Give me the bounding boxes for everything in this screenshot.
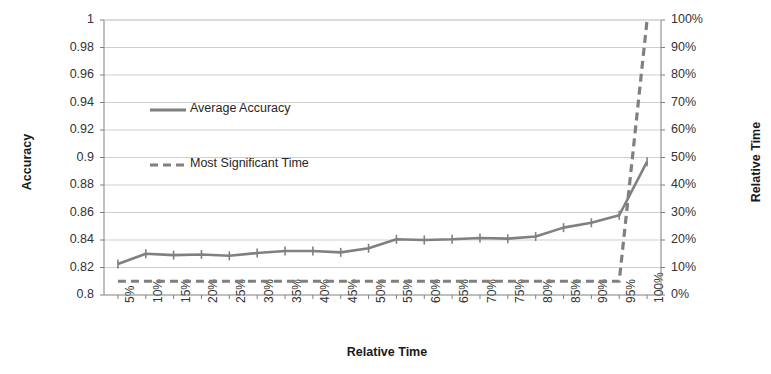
legend-label-1: Average Accuracy bbox=[190, 101, 291, 115]
plot-area bbox=[0, 0, 771, 374]
legend-label-2: Most Significant Time bbox=[190, 156, 309, 170]
chart-container: Accuracy Relative Time Relative Time 0.8… bbox=[0, 0, 771, 374]
series-line-2 bbox=[118, 20, 647, 281]
